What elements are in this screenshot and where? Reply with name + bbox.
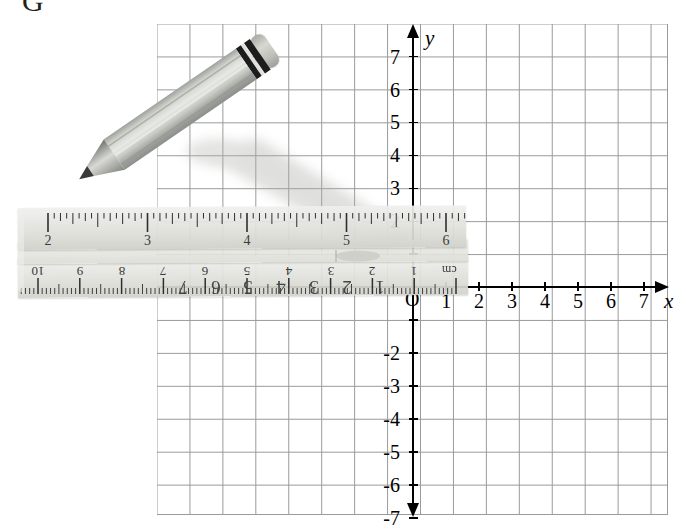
y-tick-3	[409, 188, 418, 190]
x-tick-label-6: 6	[606, 291, 616, 311]
ruler-inch-label-6: 6	[443, 233, 450, 249]
y-tick-5	[409, 122, 418, 124]
y-tick-label-6: 6	[376, 80, 400, 100]
y-tick-neg-6	[409, 484, 418, 486]
x-tick-label-neg-6: 6	[211, 276, 221, 298]
ruler-cm-label-7: 7	[160, 263, 167, 279]
y-tick-7	[409, 56, 418, 58]
y-tick-neg-7	[409, 517, 418, 519]
x-tick-label-neg-3: 3	[310, 276, 320, 298]
ruler-cm-label-1: 1	[411, 263, 418, 279]
x-tick-label-2: 2	[474, 291, 484, 311]
figure-canvas: G 1234567234567-2-3-4-5-6-7 x y O	[0, 0, 686, 532]
y-axis-label: y	[425, 26, 434, 51]
ruler-cm-label-8: 8	[118, 263, 125, 279]
x-tick-label-4: 4	[540, 291, 550, 311]
y-tick-4	[409, 155, 418, 157]
y-tick-neg-4	[409, 418, 418, 420]
ruler-inch-label-2: 2	[45, 233, 52, 249]
y-tick-neg-5	[409, 451, 418, 453]
ruler-cm-label-9: 9	[77, 263, 84, 279]
x-tick-label-3: 3	[507, 291, 517, 311]
x-axis-label: x	[664, 289, 673, 314]
ruler-cm-label-6: 6	[202, 263, 209, 279]
x-tick-label-neg-7: 7	[178, 276, 188, 298]
x-tick-label-neg-5: 5	[244, 276, 254, 298]
x-tick-label-7: 7	[639, 291, 649, 311]
ruler-inch-label-5: 5	[343, 233, 350, 249]
ruler-inch-label-3: 3	[144, 233, 151, 249]
x-tick-label-neg-4: 4	[277, 276, 287, 298]
clipped-heading-glyph: G	[22, 0, 44, 16]
y-tick-label-neg-6: -6	[370, 475, 400, 495]
ruler-cm-label-3: 3	[327, 263, 334, 279]
y-tick-label-neg-2: -2	[370, 343, 400, 363]
y-tick-6	[409, 89, 418, 91]
ruler-cm-label-4: 4	[286, 263, 293, 279]
y-axis-arrow-up	[407, 24, 419, 38]
ruler-cm-unit-label: cm	[442, 262, 457, 277]
ruler-cm-label-10: 10	[32, 263, 45, 279]
y-tick-label-3: 3	[376, 178, 400, 198]
y-tick-label-neg-3: -3	[370, 376, 400, 396]
y-axis-arrow-down	[407, 503, 419, 517]
y-tick-label-neg-4: -4	[370, 409, 400, 429]
x-tick-label-neg-1: 1	[376, 276, 386, 298]
x-tick-label-5: 5	[573, 291, 583, 311]
ruler-inch-label-4: 4	[244, 233, 251, 249]
y-tick-neg-1	[409, 319, 418, 321]
x-tick-label-neg-2: 2	[343, 276, 353, 298]
y-tick-label-5: 5	[376, 112, 400, 132]
y-tick-neg-2	[409, 352, 418, 354]
y-tick-label-neg-7: -7	[370, 508, 400, 528]
y-tick-label-neg-5: -5	[370, 442, 400, 462]
y-tick-neg-3	[409, 385, 418, 387]
y-tick-label-7: 7	[376, 47, 400, 67]
y-tick-label-4: 4	[376, 145, 400, 165]
